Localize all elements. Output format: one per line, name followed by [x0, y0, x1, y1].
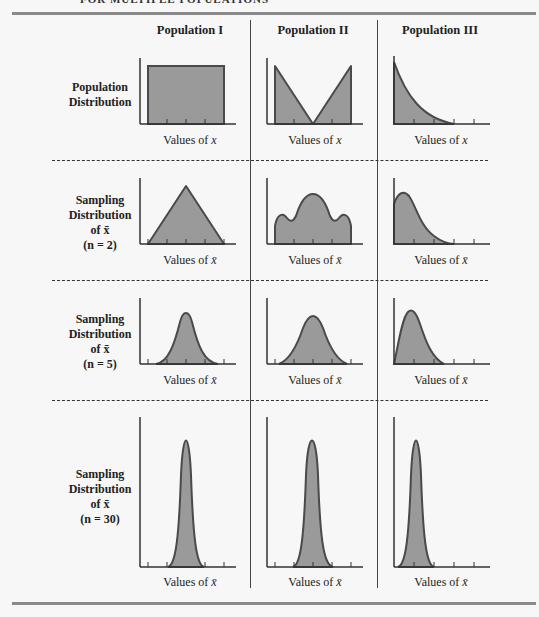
axis-label-prefix: Values of — [288, 373, 336, 387]
clipped-page-header: FOR MULTIPLE POPULATIONS — [80, 0, 269, 5]
plot-pop3-n2 — [392, 176, 492, 248]
plot-pop2-n2 — [265, 176, 365, 248]
axis-label-prefix: Values of — [414, 133, 462, 147]
axis-label-pop1-row1: Values of x — [130, 133, 250, 148]
axis-label-prefix: Values of — [288, 253, 336, 267]
axis-label-prefix: Values of — [288, 133, 336, 147]
axis-label-pop3-row2: Values of x̄ — [381, 253, 501, 268]
axis-label-pop1-row4: Values of x̄ — [130, 575, 250, 590]
axis-label-pop2-row3: Values of x̄ — [255, 373, 375, 388]
axis-label-variable: x — [336, 133, 341, 147]
plot-pop2-n5 — [265, 296, 365, 368]
axis-label-pop1-row3: Values of x̄ — [130, 373, 250, 388]
axis-label-variable: x — [211, 133, 216, 147]
top-rule — [12, 12, 536, 15]
axis-label-prefix: Values of — [414, 373, 462, 387]
axis-label-variable: x̄ — [336, 253, 341, 267]
column-header-population-3: Population III — [380, 23, 500, 38]
plot-pop3-n5 — [392, 296, 492, 368]
axis-label-variable: x̄ — [211, 373, 216, 387]
axis-label-prefix: Values of — [414, 253, 462, 267]
axis-label-prefix: Values of — [414, 575, 462, 589]
plot-pop2-population — [265, 56, 365, 128]
axis-label-pop3-row1: Values of x — [381, 133, 501, 148]
axis-label-prefix: Values of — [163, 373, 211, 387]
axis-label-variable: x̄ — [336, 575, 341, 589]
axis-label-pop2-row2: Values of x̄ — [255, 253, 375, 268]
plot-pop3-n30 — [392, 415, 492, 570]
column-header-population-2: Population II — [253, 23, 373, 38]
row-separator-3 — [52, 400, 488, 401]
axis-label-prefix: Values of — [163, 575, 211, 589]
axis-label-variable: x̄ — [462, 575, 467, 589]
axis-label-prefix: Values of — [163, 253, 211, 267]
row-separator-2 — [52, 280, 488, 281]
plot-pop1-n5 — [138, 296, 238, 368]
plot-pop1-population — [138, 56, 238, 128]
axis-label-variable: x̄ — [462, 253, 467, 267]
axis-label-pop3-row4: Values of x̄ — [381, 575, 501, 590]
plot-pop1-n30 — [138, 415, 238, 570]
axis-label-variable: x̄ — [462, 373, 467, 387]
axis-label-prefix: Values of — [163, 133, 211, 147]
plot-pop2-n30 — [265, 415, 365, 570]
column-header-population-1: Population I — [130, 23, 250, 38]
plot-pop3-population — [392, 56, 492, 128]
row-separator-1 — [52, 160, 488, 161]
axis-label-prefix: Values of — [288, 575, 336, 589]
column-divider-2 — [377, 20, 378, 588]
axis-label-variable: x̄ — [211, 575, 216, 589]
axis-label-pop2-row1: Values of x — [255, 133, 375, 148]
axis-label-pop3-row3: Values of x̄ — [381, 373, 501, 388]
axis-label-variable: x̄ — [211, 253, 216, 267]
axis-label-variable: x̄ — [336, 373, 341, 387]
bottom-rule — [12, 602, 536, 605]
axis-label-pop2-row4: Values of x̄ — [255, 575, 375, 590]
axis-label-pop1-row2: Values of x̄ — [130, 253, 250, 268]
axis-label-variable: x — [462, 133, 467, 147]
column-divider-1 — [250, 20, 251, 588]
plot-pop1-n2 — [138, 176, 238, 248]
